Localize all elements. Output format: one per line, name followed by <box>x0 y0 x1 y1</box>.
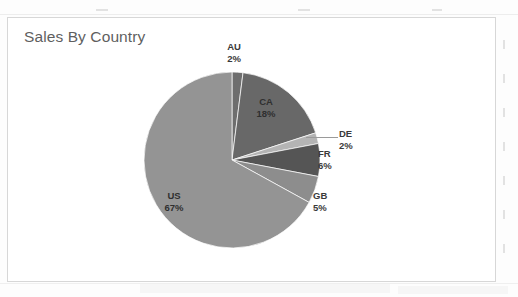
slice-label-fr-percent: 6% <box>318 160 332 171</box>
slice-label-ca-percent: 18% <box>256 108 275 119</box>
slice-label-au-percent: 2% <box>227 53 241 64</box>
slice-label-gb-name: GB <box>313 190 327 201</box>
slice-label-au: AU 2% <box>220 41 248 64</box>
slice-label-us-percent: 67% <box>164 202 183 213</box>
slice-label-au-name: AU <box>227 41 241 52</box>
slice-label-gb-percent: 5% <box>313 202 327 213</box>
slice-label-ca: CA 18% <box>252 96 280 119</box>
pie-svg <box>0 0 518 297</box>
slice-label-ca-name: CA <box>259 96 273 107</box>
pie-chart: AU 2% CA 18% DE 2% FR 6% GB 5% US 67% <box>0 0 518 297</box>
slice-label-fr-name: FR <box>318 148 331 159</box>
de-leader-line <box>306 137 338 138</box>
slice-label-gb: GB 5% <box>313 190 337 213</box>
slice-label-de-name: DE <box>339 128 352 139</box>
slice-label-us-name: US <box>167 190 180 201</box>
slice-label-us: US 67% <box>159 190 189 213</box>
slice-label-de: DE 2% <box>339 128 363 151</box>
slice-label-fr: FR 6% <box>318 148 342 171</box>
